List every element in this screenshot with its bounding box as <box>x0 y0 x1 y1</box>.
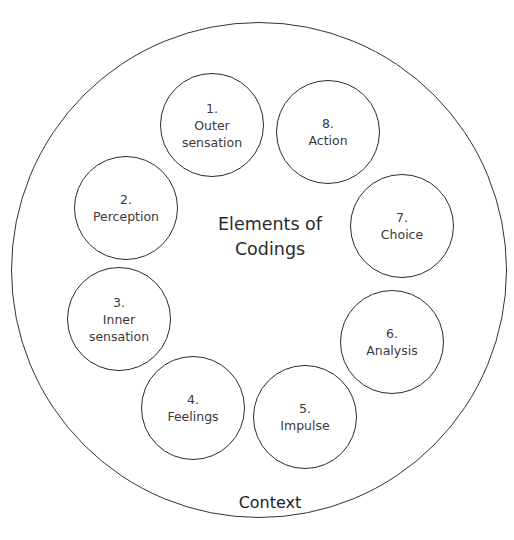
node-label: Choice <box>381 226 423 243</box>
node-number: 3. <box>113 294 125 311</box>
elements-of-codings-diagram: Elements of Codings 1. Outer sensation 2… <box>0 0 514 540</box>
node-number: 4. <box>187 391 199 408</box>
node-inner-sensation: 3. Inner sensation <box>67 267 171 371</box>
node-number: 1. <box>206 100 218 117</box>
node-analysis: 6. Analysis <box>340 290 444 394</box>
node-label: Action <box>308 132 347 149</box>
context-outer-circle <box>11 22 507 518</box>
node-outer-sensation: 1. Outer sensation <box>160 73 264 177</box>
node-action: 8. Action <box>276 80 380 184</box>
node-label: Inner sensation <box>89 311 149 345</box>
node-number: 5. <box>299 400 311 417</box>
diagram-center-title: Elements of Codings <box>190 212 350 262</box>
node-label: Analysis <box>366 342 418 359</box>
node-number: 8. <box>322 115 334 132</box>
node-choice: 7. Choice <box>350 174 454 278</box>
node-label: Impulse <box>280 417 329 434</box>
node-number: 7. <box>396 209 408 226</box>
node-label: Feelings <box>167 408 218 425</box>
context-label: Context <box>220 493 320 513</box>
node-number: 2. <box>120 191 132 208</box>
node-label: Perception <box>93 208 159 225</box>
node-label: Outer sensation <box>182 117 242 151</box>
node-feelings: 4. Feelings <box>141 356 245 460</box>
node-number: 6. <box>386 325 398 342</box>
node-impulse: 5. Impulse <box>253 365 357 469</box>
node-perception: 2. Perception <box>74 156 178 260</box>
